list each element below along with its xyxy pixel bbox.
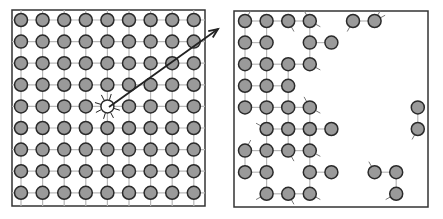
atom — [79, 143, 92, 156]
atom — [239, 15, 252, 28]
atom — [166, 186, 179, 199]
atom — [144, 165, 157, 178]
atom — [390, 187, 403, 200]
atom — [166, 143, 179, 156]
atom — [239, 101, 252, 114]
atom — [58, 14, 71, 27]
atom — [166, 100, 179, 113]
atom — [303, 144, 316, 157]
atom — [58, 143, 71, 156]
atom — [101, 35, 114, 48]
atom — [123, 186, 136, 199]
atom — [239, 79, 252, 92]
atom — [58, 186, 71, 199]
atom — [58, 57, 71, 70]
atom — [58, 78, 71, 91]
atom — [15, 165, 28, 178]
atom — [303, 36, 316, 49]
atom — [101, 186, 114, 199]
atom — [282, 187, 295, 200]
atom — [58, 35, 71, 48]
atom — [282, 101, 295, 114]
atom — [144, 143, 157, 156]
atom — [239, 36, 252, 49]
atom — [260, 79, 273, 92]
atom — [260, 123, 273, 136]
atom — [187, 143, 200, 156]
atom — [101, 14, 114, 27]
atom — [58, 165, 71, 178]
atom — [166, 78, 179, 91]
atom — [282, 123, 295, 136]
atom — [282, 144, 295, 157]
atom — [260, 166, 273, 179]
atom — [58, 100, 71, 113]
atom — [144, 57, 157, 70]
atom — [123, 35, 136, 48]
atom — [390, 166, 403, 179]
atom — [123, 122, 136, 135]
atom — [187, 186, 200, 199]
atom — [36, 57, 49, 70]
atom — [239, 144, 252, 157]
atom — [15, 78, 28, 91]
atom — [15, 143, 28, 156]
atom — [260, 101, 273, 114]
atom — [325, 123, 338, 136]
atom — [187, 122, 200, 135]
atom — [15, 35, 28, 48]
atom — [123, 100, 136, 113]
atom — [36, 78, 49, 91]
atom — [36, 143, 49, 156]
atom — [187, 165, 200, 178]
atom — [79, 78, 92, 91]
atom — [303, 187, 316, 200]
atom — [36, 100, 49, 113]
atom — [187, 100, 200, 113]
struck-atom — [101, 100, 114, 113]
atom — [144, 186, 157, 199]
atom — [15, 14, 28, 27]
atom — [36, 122, 49, 135]
intact-lattice-panel — [12, 10, 205, 206]
atom — [144, 100, 157, 113]
atom — [368, 15, 381, 28]
atom — [15, 100, 28, 113]
atom — [411, 101, 424, 114]
atom — [36, 35, 49, 48]
atom — [79, 57, 92, 70]
atom — [368, 166, 381, 179]
atom — [347, 15, 360, 28]
atom — [79, 165, 92, 178]
atom — [144, 35, 157, 48]
atom — [260, 187, 273, 200]
atom — [101, 122, 114, 135]
atom — [325, 36, 338, 49]
atom — [79, 14, 92, 27]
atom — [79, 100, 92, 113]
atom — [101, 78, 114, 91]
atom — [303, 166, 316, 179]
atom — [101, 143, 114, 156]
atom — [36, 186, 49, 199]
atom — [166, 35, 179, 48]
atom — [166, 122, 179, 135]
atom — [282, 15, 295, 28]
atom — [239, 166, 252, 179]
atom — [101, 165, 114, 178]
atom — [79, 186, 92, 199]
atom — [166, 165, 179, 178]
atom — [166, 14, 179, 27]
atom — [303, 58, 316, 71]
atom — [15, 186, 28, 199]
lattice-diagram — [0, 0, 443, 219]
atom — [101, 57, 114, 70]
atom — [36, 14, 49, 27]
atom — [123, 14, 136, 27]
atom — [260, 15, 273, 28]
atom — [303, 123, 316, 136]
atom — [411, 123, 424, 136]
atom — [123, 143, 136, 156]
atom — [123, 165, 136, 178]
atom — [260, 144, 273, 157]
